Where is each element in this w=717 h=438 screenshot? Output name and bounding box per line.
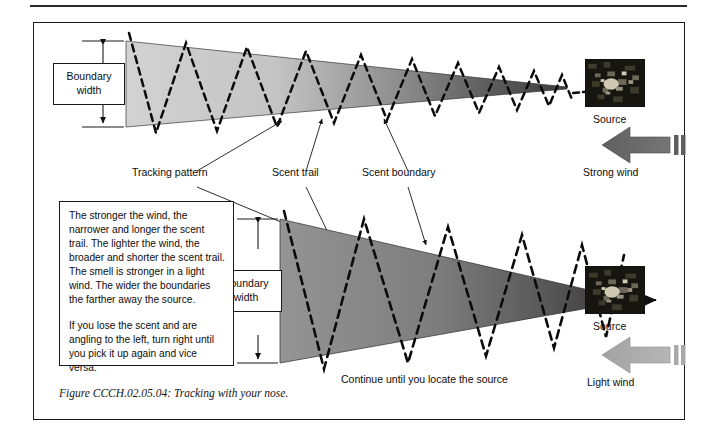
explanation-paragraph-1: The stronger the wind, the narrower and … xyxy=(69,209,225,308)
source-image-top xyxy=(585,59,645,107)
callout-label-scent-trail: Scent trail xyxy=(272,166,319,179)
boundary-width-label-top-line2: width xyxy=(77,84,102,98)
callout-leaders-top xyxy=(197,119,408,171)
boundary-width-box-top: Boundary width xyxy=(53,63,125,105)
callout-label-scent-boundary: Scent boundary xyxy=(362,166,436,179)
instruction-label: Continue until you locate the source xyxy=(341,373,508,386)
wind-label-strong: Strong wind xyxy=(583,166,638,179)
callout-label-tracking-pattern: Tracking pattern xyxy=(132,166,207,179)
explanation-textbox: The stronger the wind, the narrower and … xyxy=(59,201,234,366)
figure-caption: Figure CCCH.02.05.04: Tracking with your… xyxy=(59,387,288,399)
source-label-bottom: Source xyxy=(593,320,626,333)
wind-arrow-light xyxy=(602,337,686,373)
wind-arrow-strong xyxy=(602,127,686,163)
scent-cone-top xyxy=(126,41,567,127)
boundary-width-label-top-line1: Boundary xyxy=(67,70,112,84)
boundary-width-label-bottom-line2: width xyxy=(234,291,259,305)
source-image-bottom xyxy=(585,266,645,314)
page-top-rule xyxy=(30,5,687,7)
figure-page: Boundary width Boundary width Tracking p… xyxy=(0,0,717,438)
explanation-paragraph-2: If you lose the scent and are angling to… xyxy=(69,319,225,375)
figure-border-box: Boundary width Boundary width Tracking p… xyxy=(33,22,685,420)
source-label-top: Source xyxy=(593,113,626,126)
wind-label-light: Light wind xyxy=(587,376,634,389)
